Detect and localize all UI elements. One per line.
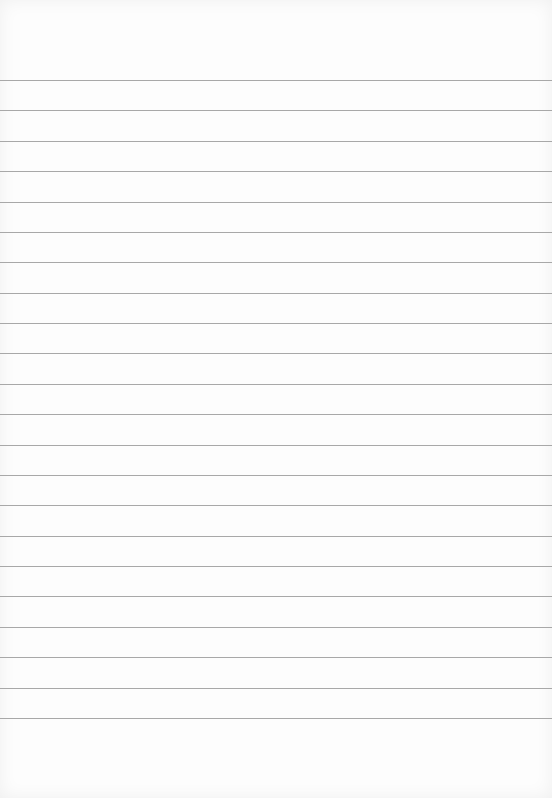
ruled-line	[0, 110, 552, 111]
ruled-line	[0, 293, 552, 294]
ruled-line	[0, 202, 552, 203]
ruled-line	[0, 627, 552, 628]
ruled-line	[0, 596, 552, 597]
lined-paper-sheet	[0, 0, 552, 798]
ruled-line	[0, 445, 552, 446]
ruled-line	[0, 536, 552, 537]
ruled-line	[0, 657, 552, 658]
ruled-line	[0, 141, 552, 142]
ruled-line	[0, 414, 552, 415]
ruled-line	[0, 353, 552, 354]
ruled-line	[0, 171, 552, 172]
ruled-line	[0, 688, 552, 689]
ruled-line	[0, 475, 552, 476]
ruled-line	[0, 384, 552, 385]
ruled-line	[0, 262, 552, 263]
ruled-line	[0, 505, 552, 506]
ruled-line	[0, 718, 552, 719]
ruled-line	[0, 323, 552, 324]
ruled-line	[0, 80, 552, 81]
ruled-line	[0, 232, 552, 233]
ruled-line	[0, 566, 552, 567]
